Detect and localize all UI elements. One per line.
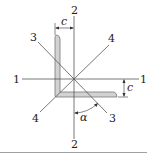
dimension-c-top-label: c bbox=[61, 15, 67, 28]
arrowhead-icon bbox=[123, 93, 126, 97]
arrowhead-icon bbox=[74, 111, 78, 114]
dimension-c-right-label: c bbox=[127, 81, 133, 94]
axis-4-bottom-label: 4 bbox=[32, 112, 39, 125]
angle-alpha-label: α bbox=[80, 111, 88, 124]
axis-1-right-label: 1 bbox=[140, 73, 147, 86]
arrowhead-icon bbox=[123, 79, 126, 83]
axis-2-bottom-label: 2 bbox=[71, 138, 78, 151]
axis-4-top-label: 4 bbox=[108, 32, 115, 45]
axis-3-line bbox=[38, 42, 107, 113]
arrowhead-icon bbox=[70, 27, 74, 30]
axis-3-bottom-label: 3 bbox=[109, 112, 116, 125]
arrowhead-icon bbox=[55, 27, 59, 30]
diagram-canvas: 1 1 2 2 3 3 4 4 c c α bbox=[0, 0, 151, 160]
axis-2-top-label: 2 bbox=[71, 4, 78, 17]
axis-3-top-label: 3 bbox=[30, 31, 37, 44]
axis-1-left-label: 1 bbox=[13, 73, 20, 86]
angle-section-diagram: 1 1 2 2 3 3 4 4 c c α bbox=[0, 0, 151, 160]
